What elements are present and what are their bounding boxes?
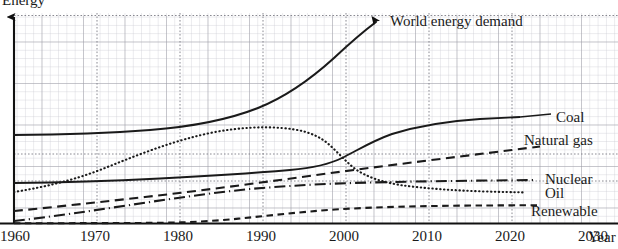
x-tick-2010: 2010 (412, 229, 442, 244)
energy-chart: Energy 1960 1970 1980 1990 2000 2010 202… (0, 0, 618, 249)
x-axis-title: Year (588, 230, 616, 245)
label-renewable: Renewable (531, 204, 598, 219)
x-tick-1960: 1960 (0, 229, 30, 244)
label-natural-gas: Natural gas (524, 133, 593, 148)
x-tick-1980: 1980 (163, 229, 193, 244)
label-oil: Oil (545, 186, 564, 201)
x-tick-2020: 2020 (495, 229, 525, 244)
grid-major (14, 16, 618, 224)
chart-canvas (0, 0, 618, 249)
y-axis-title: Energy (2, 0, 45, 8)
label-world-energy-demand: World energy demand (390, 14, 523, 29)
x-tick-1970: 1970 (80, 229, 110, 244)
label-coal: Coal (556, 110, 584, 125)
x-tick-2000: 2000 (329, 229, 359, 244)
x-tick-1990: 1990 (246, 229, 276, 244)
